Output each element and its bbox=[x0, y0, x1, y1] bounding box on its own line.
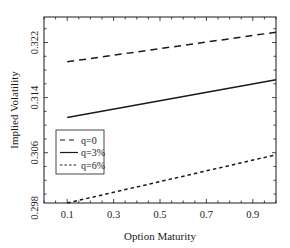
y-tick-label: 0.314 bbox=[29, 85, 40, 109]
implied-volatility-chart: 0.10.30.50.70.9 0.2980.3060.3140.322 q=0… bbox=[0, 0, 290, 248]
y-axis-label: Implied Volatility bbox=[8, 71, 20, 149]
x-tick-label: 0.3 bbox=[107, 209, 120, 220]
x-tick-label: 0.9 bbox=[246, 209, 259, 220]
x-tick-label: 0.5 bbox=[153, 209, 166, 220]
y-tick-label: 0.306 bbox=[29, 141, 40, 165]
series-line-q3 bbox=[67, 80, 276, 118]
x-tick-label: 0.7 bbox=[200, 209, 213, 220]
y-axis-ticks: 0.2980.3060.3140.322 bbox=[29, 29, 276, 220]
legend: q=0q=3%q=6% bbox=[56, 130, 105, 174]
legend-label: q=3% bbox=[81, 147, 105, 158]
x-tick-label: 0.1 bbox=[61, 209, 74, 220]
series-lines bbox=[67, 32, 276, 203]
x-axis-ticks: 0.10.30.50.70.9 bbox=[44, 17, 276, 220]
x-axis-label: Option Maturity bbox=[124, 230, 196, 242]
y-tick-label: 0.322 bbox=[29, 31, 40, 55]
y-tick-label: 0.298 bbox=[29, 196, 40, 220]
legend-label: q=6% bbox=[81, 160, 105, 171]
plot-frame bbox=[44, 17, 276, 203]
chart-canvas: 0.10.30.50.70.9 0.2980.3060.3140.322 q=0… bbox=[0, 0, 290, 248]
series-line-q0 bbox=[67, 32, 276, 62]
legend-label: q=0 bbox=[81, 135, 97, 146]
